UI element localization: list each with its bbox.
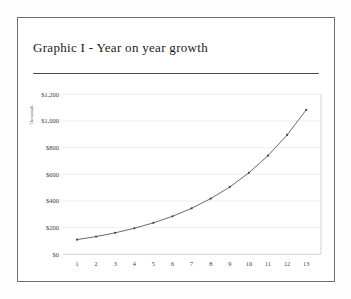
y-tick-label: $0 bbox=[53, 251, 60, 258]
y-tick-label: $600 bbox=[46, 171, 59, 178]
x-tick-label: 13 bbox=[303, 260, 309, 267]
x-tick-label: 7 bbox=[190, 260, 193, 267]
data-point-marker bbox=[191, 207, 193, 209]
x-tick-label: 10 bbox=[246, 260, 252, 267]
x-tick-label: 1 bbox=[75, 260, 78, 267]
y-tick-label: $1,200 bbox=[41, 91, 59, 98]
x-tick-label: 4 bbox=[133, 260, 136, 267]
x-tick-label: 8 bbox=[209, 260, 212, 267]
data-point-marker bbox=[210, 197, 212, 199]
data-point-marker bbox=[171, 215, 173, 217]
y-tick-label: $800 bbox=[46, 144, 59, 151]
growth-series-line bbox=[77, 110, 306, 240]
y-tick-label: $1,000 bbox=[41, 117, 59, 124]
data-point-marker bbox=[248, 172, 250, 174]
data-point-marker bbox=[76, 239, 78, 241]
data-point-marker bbox=[133, 227, 135, 229]
y-tick-label: $200 bbox=[46, 224, 59, 231]
y-axis-title: Thousands bbox=[29, 105, 34, 125]
x-tick-label: 5 bbox=[152, 260, 155, 267]
data-point-marker bbox=[152, 222, 154, 224]
growth-line-chart: $1,200$1,000$800$600$400$200$0Thousands1… bbox=[18, 18, 334, 281]
data-point-marker bbox=[95, 235, 97, 237]
x-tick-label: 11 bbox=[265, 260, 271, 267]
chart-card: Graphic I - Year on year growth $1,200$1… bbox=[17, 17, 335, 282]
x-tick-label: 3 bbox=[114, 260, 117, 267]
y-tick-label: $400 bbox=[46, 197, 59, 204]
data-point-marker bbox=[305, 109, 307, 111]
x-tick-label: 12 bbox=[284, 260, 290, 267]
x-tick-label: 6 bbox=[171, 260, 174, 267]
x-tick-label: 2 bbox=[95, 260, 98, 267]
data-point-marker bbox=[267, 155, 269, 157]
x-tick-label: 9 bbox=[228, 260, 231, 267]
data-point-marker bbox=[286, 134, 288, 136]
data-point-marker bbox=[229, 186, 231, 188]
data-point-marker bbox=[114, 232, 116, 234]
